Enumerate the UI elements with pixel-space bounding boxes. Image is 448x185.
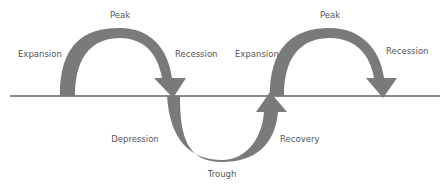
arc-peak-2 [270, 28, 397, 98]
label-expansion-2: Expansion [235, 49, 279, 59]
label-peak-2: Peak [320, 10, 340, 20]
label-depression: Depression [111, 134, 159, 144]
arc-trough [167, 92, 287, 162]
label-expansion-1: Expansion [18, 49, 62, 59]
label-recession-1: Recession [175, 49, 217, 59]
label-peak-1: Peak [110, 10, 130, 20]
label-trough: Trough [207, 169, 237, 179]
label-recession-2: Recession [386, 46, 428, 56]
business-cycle-diagram: Peak Expansion Recession Depression Trou… [0, 0, 448, 185]
arc-peak-1 [60, 28, 186, 98]
label-recovery: Recovery [280, 134, 319, 144]
